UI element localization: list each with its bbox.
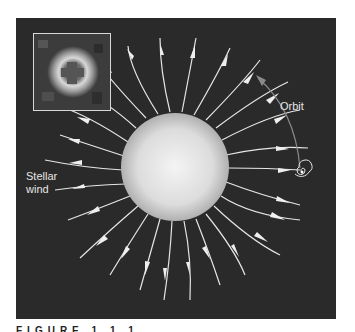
stellar-wind-label-line1: Stellar	[26, 170, 57, 183]
inset-observation-image	[33, 33, 111, 111]
diagram-panel: Orbit Stellar wind	[16, 18, 336, 319]
stellar-wind-label-line2: wind	[26, 183, 57, 196]
orbit-label: Orbit	[280, 100, 304, 113]
figure-caption: FIGURE 1.1.1	[16, 324, 139, 332]
orbit-arc	[258, 78, 300, 168]
star	[121, 113, 229, 221]
stellar-wind-label: Stellar wind	[26, 170, 57, 196]
spiral-icon	[295, 160, 312, 176]
